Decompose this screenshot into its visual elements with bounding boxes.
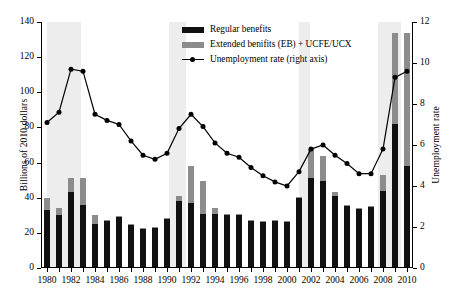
x-tick <box>83 268 84 272</box>
y-tick-label-left: 0 <box>29 263 34 273</box>
y-tick-label-right: 8 <box>420 99 425 109</box>
x-tick-label: 2008 <box>374 275 393 285</box>
legend-label-extended: Extended benifits (EB) + UCFE/UCX <box>210 37 352 52</box>
x-tick <box>275 268 276 272</box>
y-tick-left <box>37 127 41 128</box>
x-tick <box>47 268 48 272</box>
x-tick <box>239 268 240 272</box>
legend-item-extended-benefits: Extended benifits (EB) + UCFE/UCX <box>182 37 352 52</box>
x-tick <box>71 268 72 272</box>
x-tick <box>287 268 288 272</box>
x-tick <box>251 268 252 272</box>
x-tick <box>143 268 144 272</box>
x-tick <box>383 268 384 272</box>
x-tick <box>335 268 336 272</box>
x-tick <box>95 268 96 272</box>
x-tick-label: 1996 <box>230 275 249 285</box>
x-tick <box>131 268 132 272</box>
legend-item-regular-benefits: Regular benefits <box>182 22 352 37</box>
x-tick-label: 1990 <box>158 275 177 285</box>
y-tick-left <box>37 268 41 269</box>
x-tick <box>311 268 312 272</box>
y-tick-label-left: 80 <box>25 122 35 132</box>
x-tick <box>179 268 180 272</box>
x-tick <box>119 268 120 272</box>
y-tick-label-left: 60 <box>25 158 35 168</box>
x-tick <box>107 268 108 272</box>
x-tick <box>167 268 168 272</box>
y-tick-left <box>37 22 41 23</box>
y-tick-right <box>413 186 417 187</box>
x-tick <box>371 268 372 272</box>
x-tick-label: 1998 <box>254 275 273 285</box>
y-tick-right <box>413 104 417 105</box>
x-tick-label: 1986 <box>110 275 129 285</box>
x-tick <box>191 268 192 272</box>
x-tick-label: 1984 <box>86 275 105 285</box>
y-tick-label-left: 140 <box>20 17 34 27</box>
chart-legend: Regular benefits Extended benifits (EB) … <box>182 22 352 67</box>
y-tick-right <box>413 63 417 64</box>
y-tick-right <box>413 145 417 146</box>
y-tick-left <box>37 233 41 234</box>
x-tick <box>227 268 228 272</box>
y-tick-label-right: 12 <box>420 17 430 27</box>
x-tick-label: 1994 <box>206 275 225 285</box>
legend-line-marker-icon <box>182 56 204 63</box>
x-tick-label: 1980 <box>38 275 57 285</box>
x-tick-label: 2010 <box>398 275 417 285</box>
y-tick-left <box>37 198 41 199</box>
x-tick <box>59 268 60 272</box>
y-tick-label-right: 0 <box>420 263 425 273</box>
x-tick-label: 2004 <box>326 275 345 285</box>
y-tick-right <box>413 22 417 23</box>
legend-label-unemployment: Unemployment rate (right axis) <box>210 52 327 67</box>
unemployment-benefits-chart: Billions of 2010 dollars Unemployment ra… <box>0 0 458 300</box>
y-axis-right-title: Unemployment rate <box>431 75 441 215</box>
y-tick-right <box>413 227 417 228</box>
y-tick-label-right: 6 <box>420 140 425 150</box>
x-tick <box>347 268 348 272</box>
x-tick <box>203 268 204 272</box>
legend-swatch-regular-icon <box>182 27 204 33</box>
x-tick-label: 1988 <box>134 275 153 285</box>
x-tick <box>323 268 324 272</box>
y-tick-right <box>413 268 417 269</box>
x-tick-label: 2006 <box>350 275 369 285</box>
y-tick-label-left: 120 <box>20 52 34 62</box>
y-tick-label-left: 100 <box>20 87 34 97</box>
legend-label-regular: Regular benefits <box>210 22 271 37</box>
y-tick-left <box>37 57 41 58</box>
y-tick-label-right: 10 <box>420 58 430 68</box>
x-tick-label: 2002 <box>302 275 321 285</box>
legend-item-unemployment-rate: Unemployment rate (right axis) <box>182 52 352 67</box>
x-tick-label: 1992 <box>182 275 201 285</box>
x-tick <box>395 268 396 272</box>
x-tick <box>155 268 156 272</box>
y-tick-label-right: 4 <box>420 181 425 191</box>
x-tick <box>215 268 216 272</box>
x-tick <box>359 268 360 272</box>
x-tick <box>407 268 408 272</box>
x-tick <box>263 268 264 272</box>
y-tick-label-left: 40 <box>25 193 35 203</box>
y-tick-label-left: 20 <box>25 228 35 238</box>
x-tick <box>299 268 300 272</box>
y-tick-left <box>37 163 41 164</box>
legend-swatch-extended-icon <box>182 42 204 48</box>
x-tick-label: 2000 <box>278 275 297 285</box>
y-tick-left <box>37 92 41 93</box>
x-tick-label: 1982 <box>62 275 81 285</box>
y-tick-label-right: 2 <box>420 222 425 232</box>
